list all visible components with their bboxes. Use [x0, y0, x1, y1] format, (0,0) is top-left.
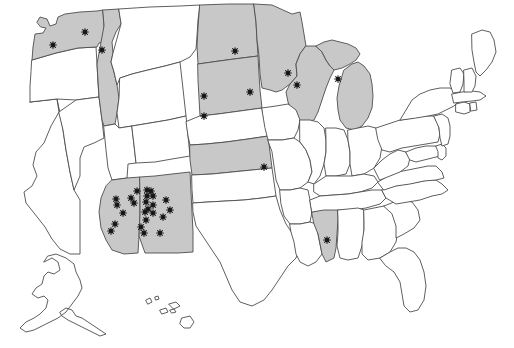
map-marker: [128, 195, 135, 202]
map-marker: [285, 70, 292, 77]
us-map-svg: [0, 0, 514, 348]
map-marker: [82, 29, 89, 36]
map-marker: [108, 228, 115, 235]
state-hawaii[interactable]: [146, 296, 194, 328]
state-utah[interactable]: [104, 124, 136, 180]
state-iowa[interactable]: [262, 104, 300, 140]
map-marker: [141, 230, 148, 237]
map-marker: [113, 196, 120, 203]
state-new-york[interactable]: [400, 88, 460, 120]
map-marker: [324, 237, 331, 244]
map-marker: [232, 48, 239, 55]
map-marker: [261, 164, 268, 171]
map-marker: [247, 89, 254, 96]
state-connecticut[interactable]: [456, 102, 470, 114]
us-map-figure: [0, 0, 514, 348]
map-marker: [131, 200, 138, 207]
map-marker: [167, 207, 174, 214]
map-marker: [134, 188, 141, 195]
map-marker: [163, 197, 170, 204]
state-alaska[interactable]: [20, 254, 106, 336]
map-marker: [201, 93, 208, 100]
map-marker: [160, 214, 167, 221]
state-maine[interactable]: [472, 30, 496, 76]
map-marker: [150, 202, 157, 209]
state-arizona[interactable]: [99, 177, 140, 254]
map-marker: [112, 221, 119, 228]
map-marker: [201, 113, 208, 120]
state-florida[interactable]: [380, 248, 426, 312]
map-marker: [138, 224, 145, 231]
state-arkansas[interactable]: [280, 188, 312, 224]
map-marker: [150, 193, 157, 200]
map-marker: [157, 230, 164, 237]
map-marker: [143, 217, 150, 224]
state-new-hampshire[interactable]: [464, 68, 476, 92]
map-marker: [114, 202, 121, 209]
map-marker: [50, 42, 57, 49]
state-indiana[interactable]: [324, 128, 350, 176]
state-vermont[interactable]: [450, 68, 464, 93]
map-marker: [143, 199, 150, 206]
map-marker: [335, 76, 342, 83]
map-marker: [294, 82, 301, 89]
map-marker: [99, 47, 106, 54]
state-michigan-lp[interactable]: [337, 62, 373, 130]
state-south-dakota[interactable]: [198, 56, 262, 116]
map-marker: [142, 209, 149, 216]
map-marker: [150, 210, 157, 217]
states-layer: [20, 4, 496, 336]
state-alabama[interactable]: [337, 208, 364, 260]
state-north-dakota[interactable]: [197, 4, 258, 64]
map-marker: [120, 210, 127, 217]
state-rhode-island[interactable]: [470, 102, 477, 111]
